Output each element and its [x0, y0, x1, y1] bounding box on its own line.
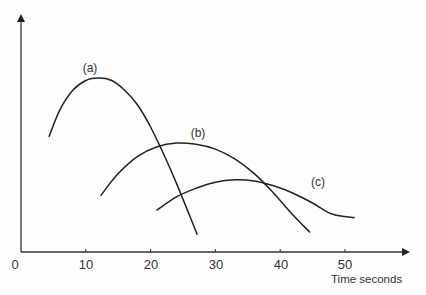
- x-tick-label-10: 10: [79, 257, 93, 272]
- x-axis-title: Time seconds: [331, 273, 402, 285]
- curves: [49, 78, 355, 235]
- series-label-c: (c): [311, 175, 325, 189]
- series-label-b: (b): [191, 126, 206, 140]
- plot-area: [0, 0, 426, 295]
- x-tick-label-0: 0: [11, 257, 18, 272]
- x-tick-label-20: 20: [144, 257, 158, 272]
- series-label-a: (a): [83, 61, 98, 75]
- chart: 0 10 20 30 40 50 Time seconds (a) (b) (c…: [0, 0, 426, 295]
- x-tick-label-50: 50: [338, 257, 352, 272]
- curve-a: [49, 78, 197, 235]
- x-tick-label-40: 40: [274, 257, 288, 272]
- x-tick-label-30: 30: [209, 257, 223, 272]
